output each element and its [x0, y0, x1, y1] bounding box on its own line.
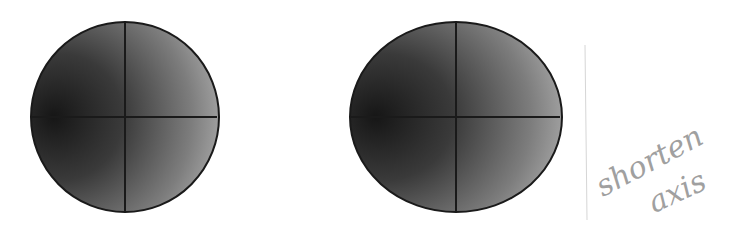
diagram-canvas: shorten axis [0, 0, 734, 234]
ellipse-figure [350, 21, 562, 213]
handwritten-note: shorten axis [590, 118, 712, 220]
circle-figure [31, 21, 219, 213]
margin-line [585, 45, 587, 220]
